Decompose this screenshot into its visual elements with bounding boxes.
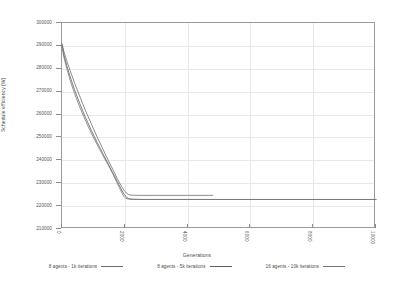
y-tick-mark: [56, 136, 61, 137]
x-tick-mark: [312, 224, 313, 228]
y-tick-label: 250000: [36, 132, 52, 141]
legend-label: 8 agents - 5k iterations: [157, 264, 205, 269]
legend-item-0[interactable]: 8 agents - 1k iterations: [49, 264, 123, 269]
series-lines: [62, 23, 376, 229]
y-tick-mark: [56, 45, 61, 46]
y-tick-mark: [56, 68, 61, 69]
y-tick-label: 290000: [36, 40, 52, 49]
x-tick-label: 2000: [118, 231, 124, 242]
x-tick-mark: [61, 224, 62, 228]
series-line-2: [62, 46, 376, 199]
x-tick-label: 4000: [181, 231, 187, 242]
x-axis-title: Generations: [0, 252, 394, 258]
x-tick-mark: [187, 224, 188, 228]
x-tick-mark: [249, 224, 250, 228]
x-tick-label: 10000: [369, 231, 375, 244]
y-axis-title: Schedule efficiency [W]: [0, 78, 6, 132]
y-tick-label: 300000: [36, 18, 52, 27]
x-tick-mark: [375, 224, 376, 228]
series-line-1: [62, 45, 376, 200]
y-tick-label: 280000: [36, 63, 52, 72]
y-tick-mark: [56, 159, 61, 160]
x-tick-label: 0: [55, 231, 61, 234]
y-tick-mark: [56, 91, 61, 92]
y-tick-mark: [56, 182, 61, 183]
y-tick-mark: [56, 22, 61, 23]
y-tick-label: 270000: [36, 86, 52, 95]
chart-legend: 8 agents - 1k iterations8 agents - 5k it…: [0, 264, 394, 269]
y-tick-label: 260000: [36, 109, 52, 118]
legend-label: 8 agents - 1k iterations: [49, 264, 97, 269]
legend-line-swatch: [210, 266, 232, 267]
legend-item-2[interactable]: 16 agents - 10k iterations: [266, 264, 346, 269]
y-tick-label: 240000: [36, 155, 52, 164]
x-tick-mark: [124, 224, 125, 228]
legend-line-swatch: [101, 266, 123, 267]
legend-line-swatch: [323, 266, 345, 267]
x-tick-label: 8000: [307, 231, 313, 242]
y-tick-mark: [56, 228, 61, 229]
y-tick-mark: [56, 205, 61, 206]
y-tick-label: 210000: [36, 224, 52, 233]
y-tick-label: 230000: [36, 178, 52, 187]
y-tick-label: 220000: [36, 201, 52, 210]
y-tick-mark: [56, 114, 61, 115]
plot-area: [61, 22, 375, 228]
x-tick-label: 6000: [244, 231, 250, 242]
legend-label: 16 agents - 10k iterations: [266, 264, 320, 269]
legend-item-1[interactable]: 8 agents - 5k iterations: [157, 264, 231, 269]
line-chart: 3000002900002800002700002600002500002400…: [0, 0, 394, 288]
